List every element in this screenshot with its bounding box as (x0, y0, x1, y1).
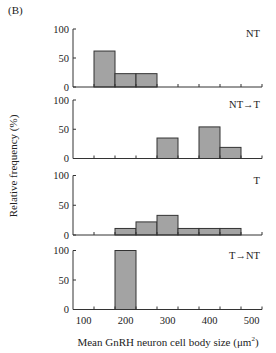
y-tick-label: 50 (59, 275, 70, 286)
y-tick-label: 100 (53, 95, 69, 106)
panel-name-label: T→NT (229, 250, 260, 261)
panel-t: 050100T (53, 170, 262, 241)
histogram-bar (157, 215, 178, 235)
histogram-bar (136, 74, 157, 87)
y-tick-label: 100 (53, 170, 69, 181)
y-tick-label: 50 (59, 124, 70, 135)
x-tick-label: 400 (202, 315, 218, 326)
x-tick-label: 100 (76, 315, 92, 326)
x-tick-label: 300 (160, 315, 176, 326)
histogram-bar (178, 228, 199, 235)
y-tick-label: 100 (53, 245, 69, 256)
histogram-bar (199, 228, 220, 235)
y-tick-label: 0 (64, 230, 69, 241)
y-tick-label: 50 (59, 200, 70, 211)
histogram-bar (115, 74, 136, 87)
panel-name-label: T (254, 175, 261, 186)
histogram-bar (220, 147, 241, 158)
histogram-panels: 050100NT050100NT→T050100T050100T→NT10020… (0, 0, 276, 353)
y-tick-label: 0 (64, 82, 69, 93)
panel-t-nt: 050100T→NT100200300400500 (53, 245, 262, 326)
histogram-bar (199, 127, 220, 159)
y-tick-label: 0 (64, 153, 69, 164)
histogram-bar (115, 228, 136, 235)
y-tick-label: 100 (53, 24, 69, 35)
histogram-bar (136, 222, 157, 235)
panel-name-label: NT (246, 28, 261, 39)
histogram-bar (157, 138, 178, 158)
histogram-bar (94, 51, 115, 87)
x-tick-label: 200 (118, 315, 134, 326)
histogram-bar (115, 251, 136, 310)
panel-name-label: NT→T (229, 99, 260, 110)
x-tick-label: 500 (244, 315, 260, 326)
y-tick-label: 50 (59, 53, 70, 64)
panel-nt-t: 050100NT→T (53, 95, 262, 165)
y-tick-label: 0 (64, 304, 69, 315)
histogram-bar (220, 228, 241, 235)
panel-nt: 050100NT (53, 24, 262, 93)
